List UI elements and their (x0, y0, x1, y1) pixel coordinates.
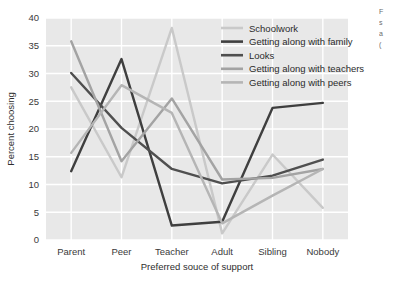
y-axis-tick-labels: 0510152025303540 (28, 12, 39, 245)
figure-container: 0510152025303540 ParentPeerTeacherAdultS… (0, 0, 405, 283)
y-tick-label: 10 (28, 179, 39, 190)
x-tick-label: Peer (111, 246, 131, 257)
caption-line: a (379, 28, 403, 39)
y-tick-label: 0 (34, 234, 39, 245)
x-tick-label: Nobody (306, 246, 339, 257)
legend-label-schoolwork: Schoolwork (249, 23, 298, 34)
y-axis-title: Percent choosing (5, 92, 16, 165)
legend-label-looks: Looks (249, 50, 275, 61)
line-chart: 0510152025303540 ParentPeerTeacherAdultS… (0, 0, 405, 283)
y-tick-label: 25 (28, 96, 39, 107)
x-axis-tick-labels: ParentPeerTeacherAdultSiblingNobody (57, 246, 339, 257)
y-tick-label: 35 (28, 40, 39, 51)
y-tick-label: 15 (28, 151, 39, 162)
x-tick-label: Sibling (258, 246, 287, 257)
x-tick-label: Parent (57, 246, 85, 257)
y-tick-label: 30 (28, 68, 39, 79)
y-tick-label: 5 (34, 207, 39, 218)
x-axis-title: Preferred souce of support (141, 261, 254, 272)
legend-label-getting-along-with-teachers: Getting along with teachers (249, 63, 364, 74)
caption-fragment: Fsa( (379, 6, 403, 50)
y-tick-label: 40 (28, 12, 39, 23)
x-tick-label: Adult (211, 246, 233, 257)
legend-label-getting-along-with-family: Getting along with family (249, 36, 353, 47)
caption-line: F (379, 6, 403, 17)
caption-line: ( (379, 39, 403, 50)
legend-label-getting-along-with-peers: Getting along with peers (249, 77, 352, 88)
x-tick-label: Teacher (155, 246, 189, 257)
caption-line: s (379, 17, 403, 28)
y-tick-label: 20 (28, 123, 39, 134)
